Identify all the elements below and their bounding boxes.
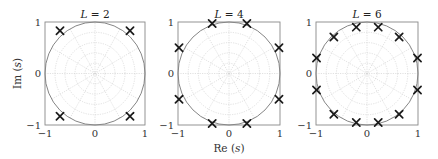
x-tick-label: 0 — [364, 128, 370, 139]
pole-plot-4: L = 410−1−101Re (s) — [159, 8, 283, 154]
x-marker-icon — [313, 86, 320, 93]
plot-title: L = 6 — [351, 8, 381, 20]
x-tick-label: 1 — [142, 128, 148, 139]
pole-plot-6: L = 610−1−101 — [297, 8, 421, 139]
x-marker-icon — [396, 111, 403, 118]
polar-grid — [316, 22, 418, 125]
y-tick-label: 1 — [35, 17, 41, 28]
x-marker-icon — [243, 20, 250, 27]
x-axis-label: Re (s) — [213, 142, 244, 154]
x-tick-label: 0 — [226, 128, 232, 139]
x-marker-icon — [56, 27, 63, 34]
x-tick-label: −1 — [38, 128, 53, 139]
plot-title: L = 4 — [213, 8, 243, 20]
y-tick-label: 0 — [168, 68, 174, 79]
x-tick-label: −1 — [171, 128, 186, 139]
x-marker-icon — [175, 44, 182, 51]
x-marker-icon — [353, 24, 360, 31]
x-marker-icon — [396, 33, 403, 40]
x-marker-icon — [275, 96, 282, 103]
polar-grid — [45, 22, 145, 125]
x-marker-icon — [375, 24, 382, 31]
y-tick-label: 1 — [306, 17, 312, 28]
y-tick-label: 0 — [306, 68, 312, 79]
x-marker-icon — [175, 96, 182, 103]
pole-plot-2: L = 210−1−101Im (s) — [11, 8, 148, 139]
x-marker-icon — [243, 120, 250, 127]
x-marker-icon — [126, 113, 133, 120]
x-marker-icon — [414, 54, 421, 61]
x-marker-icon — [126, 27, 133, 34]
x-marker-icon — [56, 113, 63, 120]
plot-title: L = 2 — [79, 8, 109, 20]
x-tick-label: 1 — [415, 128, 421, 139]
y-tick-label: 0 — [35, 68, 41, 79]
polar-grid — [178, 22, 280, 125]
x-marker-icon — [275, 44, 282, 51]
x-tick-label: −1 — [309, 128, 324, 139]
y-axis-label: Im (s) — [11, 58, 23, 89]
x-marker-icon — [414, 86, 421, 93]
x-marker-icon — [313, 54, 320, 61]
x-tick-label: 0 — [92, 128, 98, 139]
x-tick-label: 1 — [277, 128, 283, 139]
pole-plot-figure: L = 210−1−101Im (s)L = 410−1−101Re (s)L … — [0, 0, 438, 159]
y-tick-label: 1 — [168, 17, 174, 28]
